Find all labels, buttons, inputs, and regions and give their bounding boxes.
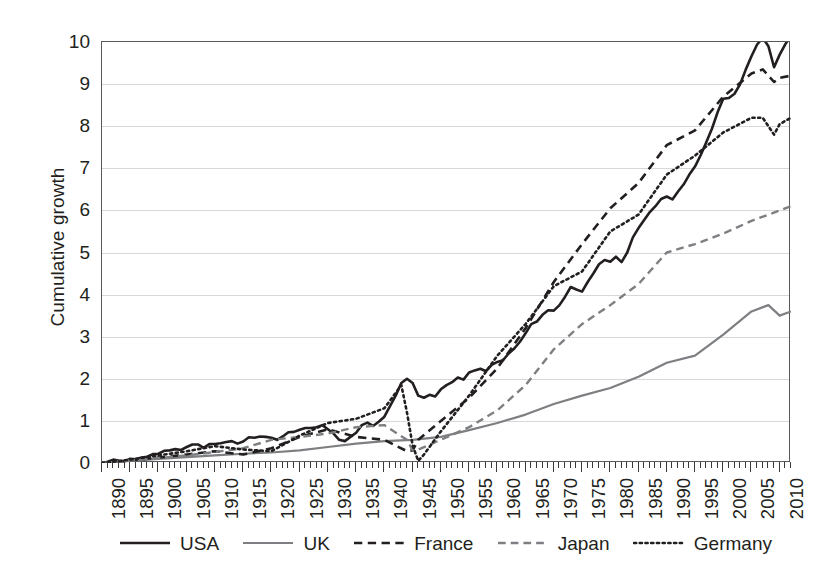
x-tick-label: 1975 <box>588 478 610 519</box>
x-tick-major <box>581 462 582 472</box>
x-tick-major <box>383 462 384 472</box>
x-tick-label: 1925 <box>306 478 328 519</box>
x-tick-major <box>186 462 187 472</box>
x-tick-minor <box>479 462 480 468</box>
x-tick-minor <box>739 462 740 468</box>
x-tick-major <box>327 462 328 472</box>
x-tick-minor <box>671 462 672 468</box>
x-tick-minor <box>231 462 232 468</box>
x-tick-minor <box>717 462 718 468</box>
x-tick-minor <box>434 462 435 468</box>
y-tick-label: 4 <box>56 285 90 304</box>
x-tick-label: 2010 <box>786 478 808 519</box>
dashed-line-swatch <box>353 536 405 550</box>
x-tick-major <box>779 462 780 472</box>
x-tick-minor <box>734 462 735 468</box>
solid-line-swatch <box>242 536 294 550</box>
x-tick-minor <box>519 462 520 468</box>
x-tick-minor <box>474 462 475 468</box>
x-tick-minor <box>446 462 447 468</box>
x-tick-minor <box>180 462 181 468</box>
x-tick-minor <box>598 462 599 468</box>
legend-item-japan[interactable]: Japan <box>497 534 610 553</box>
x-tick-major <box>299 462 300 472</box>
x-tick-minor <box>400 462 401 468</box>
x-tick-major <box>525 462 526 472</box>
x-tick-label: 2005 <box>757 478 779 519</box>
dashed-line-swatch <box>497 536 549 550</box>
x-tick-minor <box>293 462 294 468</box>
x-tick-minor <box>208 462 209 468</box>
x-tick-minor <box>197 462 198 468</box>
x-tick-label: 1995 <box>701 478 723 519</box>
x-tick-minor <box>773 462 774 468</box>
y-tick-label: 1 <box>56 411 90 430</box>
legend-label: Japan <box>558 534 610 553</box>
x-tick-major <box>101 462 102 472</box>
x-tick-label: 1985 <box>645 478 667 519</box>
x-tick-minor <box>660 462 661 468</box>
x-tick-minor <box>338 462 339 468</box>
x-tick-minor <box>558 462 559 468</box>
x-tick-minor <box>587 462 588 468</box>
x-tick-minor <box>169 462 170 468</box>
x-tick-minor <box>304 462 305 468</box>
x-tick-major <box>496 462 497 472</box>
dotted-line-swatch <box>633 536 685 550</box>
x-tick-label: 1970 <box>560 478 582 519</box>
x-tick-minor <box>451 462 452 468</box>
x-tick-minor <box>502 462 503 468</box>
x-tick-minor <box>649 462 650 468</box>
x-tick-label: 1965 <box>532 478 554 519</box>
x-tick-major <box>157 462 158 472</box>
x-tick-minor <box>570 462 571 468</box>
legend-item-usa[interactable]: USA <box>119 534 219 553</box>
x-tick-major <box>638 462 639 472</box>
x-tick-major <box>440 462 441 472</box>
legend-item-germany[interactable]: Germany <box>633 534 772 553</box>
x-tick-minor <box>564 462 565 468</box>
y-tick-label: 6 <box>56 200 90 219</box>
legend-label: France <box>414 534 473 553</box>
x-tick-minor <box>163 462 164 468</box>
x-tick-major <box>270 462 271 472</box>
cumulative-growth-chart: Cumulative growth 012345678910 189018951… <box>0 0 816 577</box>
y-tick-label: 0 <box>56 453 90 472</box>
legend-label: UK <box>303 534 329 553</box>
x-tick-major <box>355 462 356 472</box>
x-tick-label: 1935 <box>362 478 384 519</box>
x-tick-minor <box>310 462 311 468</box>
legend-item-uk[interactable]: UK <box>242 534 329 553</box>
y-tick-label: 5 <box>56 243 90 262</box>
x-tick-minor <box>344 462 345 468</box>
y-tick-label: 8 <box>56 116 90 135</box>
plot-area <box>101 41 790 462</box>
x-tick-minor <box>152 462 153 468</box>
x-tick-label: 2000 <box>729 478 751 519</box>
x-tick-label: 1930 <box>334 478 356 519</box>
x-tick-label: 1960 <box>503 478 525 519</box>
x-tick-minor <box>615 462 616 468</box>
x-tick-minor <box>389 462 390 468</box>
x-tick-label: 1900 <box>164 478 186 519</box>
x-tick-minor <box>688 462 689 468</box>
x-tick-major <box>609 462 610 472</box>
x-tick-minor <box>259 462 260 468</box>
x-tick-major <box>694 462 695 472</box>
x-tick-major <box>412 462 413 472</box>
x-tick-minor <box>592 462 593 468</box>
y-tick-label: 3 <box>56 327 90 346</box>
legend-item-france[interactable]: France <box>353 534 473 553</box>
x-tick-minor <box>349 462 350 468</box>
x-tick-minor <box>683 462 684 468</box>
x-tick-label: 1945 <box>419 478 441 519</box>
x-tick-minor <box>265 462 266 468</box>
x-tick-minor <box>107 462 108 468</box>
x-tick-minor <box>282 462 283 468</box>
x-tick-minor <box>429 462 430 468</box>
x-tick-major <box>468 462 469 472</box>
x-tick-label: 1980 <box>616 478 638 519</box>
x-tick-minor <box>643 462 644 468</box>
y-tick-label: 7 <box>56 158 90 177</box>
x-tick-minor <box>621 462 622 468</box>
